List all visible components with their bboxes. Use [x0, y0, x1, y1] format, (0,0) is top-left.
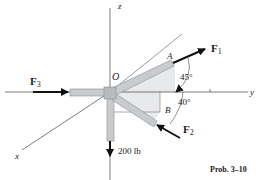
x-axis-label: x: [14, 151, 19, 161]
point-A-label: A: [166, 51, 173, 61]
x-axis: [22, 92, 110, 150]
pipe-assembly-diagram: z y x O A B F1 F2 F3 200 lb 45° 40° Prob…: [0, 0, 259, 180]
F2-label: F2: [183, 123, 194, 137]
angle-45-label: 45°: [180, 72, 193, 82]
y-axis-label: y: [249, 87, 254, 97]
problem-caption: Prob. 3–10: [210, 165, 247, 174]
point-B-label: B: [165, 105, 171, 115]
angle-40-label: 40°: [178, 97, 191, 107]
weight-label: 200 lb: [118, 146, 141, 156]
z-axis-label: z: [117, 1, 122, 11]
origin-label: O: [112, 71, 119, 82]
pipe-down: [107, 94, 114, 141]
pipe-joint: [104, 87, 116, 99]
F1-label: F1: [211, 42, 222, 56]
F3-label: F3: [30, 75, 41, 89]
F2-arrow: [157, 125, 180, 138]
